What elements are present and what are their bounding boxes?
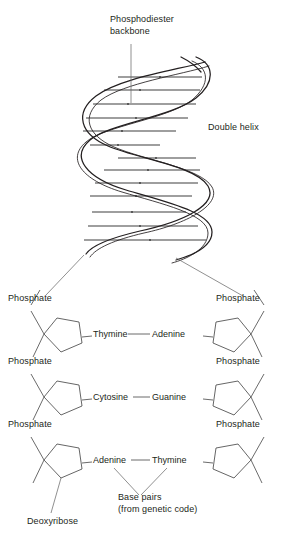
base-pairs-leader [114, 468, 167, 495]
phosphate-label-left-1: Phosphate [8, 293, 52, 304]
helix-to-right-strand-leader [176, 258, 243, 296]
helix-strand-b [77, 57, 212, 263]
phosphodiester-backbone-label: Phosphodiester backbone [110, 14, 174, 37]
phosphate-label-right-2: Phosphate [216, 356, 260, 367]
base-right-3: Thymine [152, 455, 187, 465]
helix-to-left-strand-leader [46, 255, 84, 295]
base-right-1: Adenine [152, 329, 185, 339]
double-helix-label: Double helix [208, 122, 259, 133]
phosphate-label-left-3: Phosphate [8, 419, 52, 430]
base-left-3: Adenine [93, 455, 126, 465]
helix-strand-a [83, 62, 214, 257]
base-pairs-label: Base pairs (from genetic code) [118, 492, 197, 515]
phosphate-label-right-1: Phosphate [216, 293, 260, 304]
phosphate-label-right-3: Phosphate [216, 419, 260, 430]
dna-structure-figure: .ribbon{fill:none;stroke:#231f20;stroke-… [0, 0, 295, 542]
deoxyribose-leader-line [51, 478, 61, 513]
phosphate-label-left-2: Phosphate [8, 356, 52, 367]
base-left-2: Cytosine [93, 392, 128, 402]
base-left-1: Thymine [93, 329, 128, 339]
base-right-2: Guanine [152, 392, 186, 402]
deoxyribose-label: Deoxyribose [27, 516, 78, 527]
nucleotide-row-2 [31, 374, 264, 420]
